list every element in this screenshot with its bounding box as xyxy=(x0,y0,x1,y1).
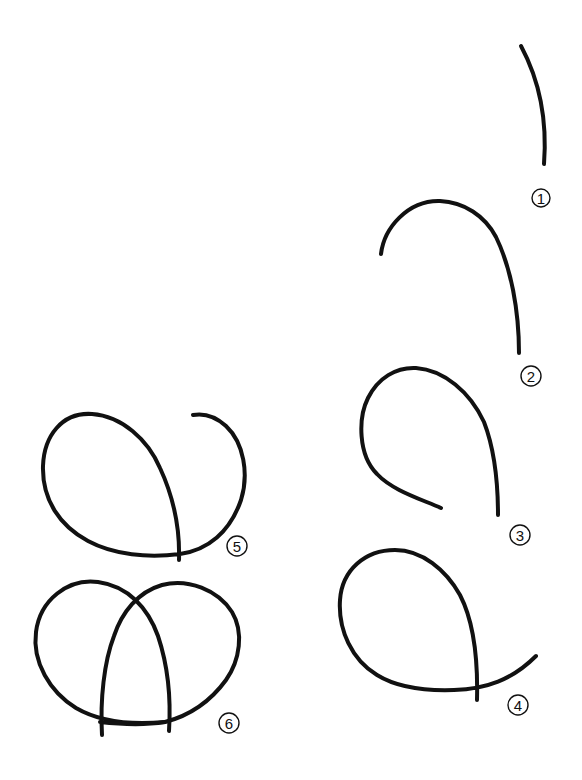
step-3: 3 xyxy=(361,368,530,545)
step-4-number: 4 xyxy=(514,697,522,714)
step-2: 2 xyxy=(381,201,541,386)
step-1-label: 1 xyxy=(532,189,550,207)
step-1: 1 xyxy=(521,46,550,207)
step-2-label: 2 xyxy=(521,366,541,386)
step-4-loop xyxy=(340,550,536,700)
step-5-left-lobe xyxy=(43,414,245,560)
step-3-loop xyxy=(361,368,498,515)
step-5-label: 5 xyxy=(227,536,247,556)
drawing-canvas: 1 2 3 4 5 xyxy=(0,0,582,780)
step-3-label: 3 xyxy=(510,525,530,545)
step-1-curve xyxy=(521,46,545,164)
step-5: 5 xyxy=(43,414,247,560)
step-4-label: 4 xyxy=(508,695,528,715)
step-6-number: 6 xyxy=(225,715,233,732)
step-5-number: 5 xyxy=(233,538,241,555)
step-3-number: 3 xyxy=(516,527,524,544)
step-2-curve xyxy=(381,201,519,353)
step-2-number: 2 xyxy=(527,368,535,385)
step-6-label: 6 xyxy=(219,713,239,733)
step-4: 4 xyxy=(340,550,536,715)
step-1-number: 1 xyxy=(537,190,545,207)
step-6: 6 xyxy=(35,582,239,735)
